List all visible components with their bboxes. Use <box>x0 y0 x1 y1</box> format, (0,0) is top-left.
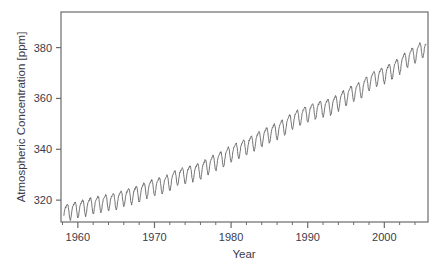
x-tick-label-1990: 1990 <box>295 231 319 243</box>
x-tick-label-1980: 1980 <box>219 231 243 243</box>
co2-curve-line <box>64 43 426 221</box>
y-tick-label-340: 340 <box>34 143 52 155</box>
x-axis-title: Year <box>232 248 255 260</box>
figure-container: 320340360380 19601970198019902000 Year A… <box>0 0 448 276</box>
y-tick-label-320: 320 <box>34 194 52 206</box>
x-axis-tick-labels: 19601970198019902000 <box>66 231 397 243</box>
x-tick-label-2000: 2000 <box>372 231 396 243</box>
data-series-group <box>64 43 426 221</box>
caption-sliver <box>0 270 448 276</box>
co2-concentration-chart: 320340360380 19601970198019902000 Year A… <box>0 0 448 276</box>
y-tick-label-360: 360 <box>34 92 52 104</box>
y-axis-ticks <box>56 48 61 201</box>
x-tick-label-1960: 1960 <box>66 231 90 243</box>
plot-frame <box>61 12 428 222</box>
x-tick-label-1970: 1970 <box>142 231 166 243</box>
y-axis-tick-labels: 320340360380 <box>34 42 52 207</box>
y-axis-title: Atmospheric Concentration [ppm] <box>15 32 27 203</box>
y-tick-label-380: 380 <box>34 42 52 54</box>
